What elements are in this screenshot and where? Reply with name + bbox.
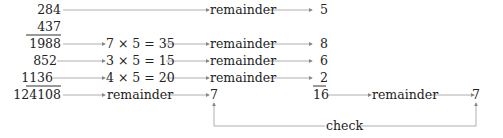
remainder-label-row4: remainder (210, 54, 276, 68)
number-124108: 124108 (13, 88, 61, 102)
result-left-7: 7 (210, 88, 218, 102)
number-437: 437 (37, 20, 61, 34)
remainder-label-sum: remainder (372, 88, 438, 102)
remainder-8: 8 (320, 37, 328, 51)
number-1136: 1136 (21, 71, 53, 85)
check-label: check (326, 119, 363, 133)
remainder-label-row3: remainder (210, 37, 276, 51)
number-284: 284 (37, 3, 61, 17)
product-4x5: 4 × 5 = 20 (106, 71, 175, 85)
remainder-5: 5 (320, 3, 328, 17)
result-right-7: 7 (472, 88, 480, 102)
sum-16: 16 (313, 88, 329, 102)
remainder-label-row6: remainder (107, 88, 173, 102)
remainder-label-row1: remainder (210, 3, 276, 17)
product-3x5: 3 × 5 = 15 (106, 54, 175, 68)
remainder-label-row5: remainder (210, 71, 276, 85)
remainder-2: 2 (320, 71, 328, 85)
remainder-6: 6 (320, 54, 328, 68)
product-7x5: 7 × 5 = 35 (106, 37, 175, 51)
number-1988: 1988 (29, 37, 61, 51)
number-852: 852 (33, 54, 57, 68)
diagram-arrows (0, 0, 503, 138)
